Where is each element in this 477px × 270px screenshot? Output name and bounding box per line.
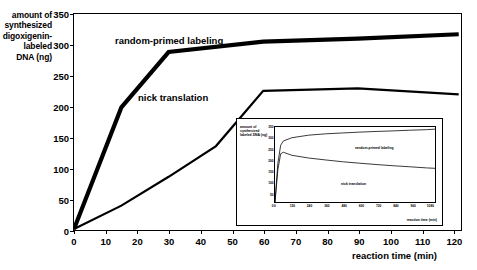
x-tick-70: 70 [291,236,302,247]
inset-x-tick-0: 0 [274,204,276,208]
inset-x-tick-240: 240 [307,204,312,208]
y-axis-label-line-5: DNA (ng) [0,52,52,62]
x-tick-40: 40 [196,236,207,247]
y-axis-label-line-2: synthesized [0,20,52,30]
inset-x-tick-960: 960 [410,204,415,208]
series-label-random-primed-labeling: random-primed labeling [115,35,223,46]
y-tick-200: 200 [53,102,69,113]
inset-x-tick-480: 480 [341,204,346,208]
y-tick-100: 100 [53,164,69,175]
x-tick-110: 110 [415,236,430,247]
x-tick-60: 60 [259,236,270,247]
x-tick-80: 80 [322,236,333,247]
x-tick-20: 20 [132,236,143,247]
inset-y-tick-250: 250 [268,148,273,152]
inset-plot-area: 0 50 100 150 200 250 300 350 0 120 240 3… [274,126,436,203]
inset-x-tick-720: 720 [376,204,381,208]
y-axis-label: amount of synthesized digoxigenin- label… [0,10,52,62]
inset-series-label-random-primed-labeling: random-primed labeling [355,146,394,150]
inset-series-random-primed-labeling-line [275,129,435,202]
x-tick-120: 120 [446,236,462,247]
y-tick-0: 0 [64,226,69,237]
inset-series-label-nick-translation: nick translation [341,182,366,186]
y-tick-300: 300 [53,40,69,51]
x-tick-0: 0 [71,236,76,247]
inset-x-tick-360: 360 [324,204,329,208]
inset-x-axis-title: reaction time (min) [407,218,437,222]
x-tick-10: 10 [100,236,111,247]
inset-y-tick-100: 100 [268,181,273,185]
inset-y-tick-150: 150 [268,170,273,174]
plot-area: 0 50 100 150 200 250 300 350 0 10 20 30 … [73,13,462,231]
inset-y-tick-300: 300 [268,136,273,140]
x-tick-50: 50 [227,236,238,247]
x-axis-title: reaction time (min) [352,250,437,261]
inset-y-tick-200: 200 [268,159,273,163]
inset-series-nick-translation-line [275,152,435,202]
inset-y-tick-350: 350 [268,125,273,129]
inset-x-tick-1080: 1080 [427,204,434,208]
series-label-nick-translation: nick translation [138,92,208,103]
x-tick-100: 100 [383,236,399,247]
y-tick-350: 350 [53,9,69,20]
inset-y-tick-50: 50 [270,193,274,197]
x-tick-90: 90 [354,236,365,247]
chart-figure: { "axis": { "y_label": "amount of synthe… [0,0,477,270]
inset-chart: amount of synthesized labeled DNA (ng) 0… [236,118,443,226]
y-axis-label-line-1: amount of [0,10,52,20]
inset-x-tick-120: 120 [290,204,295,208]
inset-x-tick-600: 600 [359,204,364,208]
y-axis-label-line-3: digoxigenin- [0,31,52,41]
y-tick-250: 250 [53,71,69,82]
x-tick-30: 30 [164,236,175,247]
y-tick-50: 50 [58,195,69,206]
y-axis-label-line-4: labeled [0,41,52,51]
inset-x-tick-840: 840 [393,204,398,208]
inset-series-lines [275,127,435,202]
y-tick-150: 150 [53,133,69,144]
